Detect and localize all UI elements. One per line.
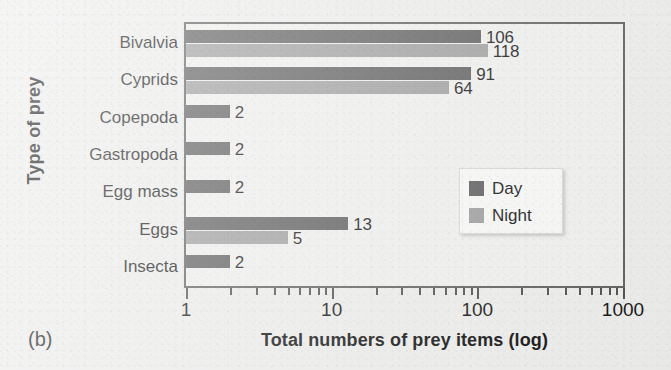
- x-axis-title: Total numbers of prey items (log): [184, 330, 625, 351]
- bar-value-egg-mass-day: 2: [235, 179, 244, 196]
- x-tick-label-10: 10: [321, 300, 342, 319]
- x-tick-major: [477, 288, 479, 299]
- x-tick-label-1000: 1000: [602, 300, 644, 319]
- x-tick-minor: [288, 288, 290, 295]
- bar-value-bivalvia-night: 118: [493, 43, 520, 60]
- x-tick-major: [623, 288, 625, 299]
- x-tick-minor: [274, 288, 276, 295]
- figure-panel-b: BivalviaCypridsCopepodaGastropodaEgg mas…: [0, 0, 671, 370]
- x-tick-minor: [579, 288, 581, 295]
- x-tick-minor: [455, 288, 457, 295]
- legend-item-day[interactable]: Day: [469, 175, 562, 202]
- x-tick-minor: [433, 288, 435, 295]
- x-tick-minor: [547, 288, 549, 295]
- bar-copepoda-day: [186, 105, 230, 118]
- x-tick-minor: [471, 288, 473, 295]
- x-tick-minor: [309, 288, 311, 295]
- legend-swatch-night-icon: [469, 208, 484, 223]
- bar-value-cyprids-day: 91: [476, 66, 495, 83]
- y-axis-label-eggs: Eggs: [18, 221, 178, 238]
- bar-bivalvia-day: [186, 30, 481, 43]
- panel-label: (b): [28, 328, 52, 351]
- bars-layer: 10611891642221352: [186, 24, 623, 286]
- x-tick-minor: [600, 288, 602, 295]
- x-tick-minor: [256, 288, 258, 295]
- x-tick-label-100: 100: [461, 300, 493, 319]
- y-axis-title: Type of prey: [24, 51, 45, 211]
- bar-value-eggs-night: 5: [293, 230, 302, 247]
- bar-cyprids-day: [186, 67, 471, 80]
- x-tick-minor: [230, 288, 232, 295]
- bar-eggs-day: [186, 217, 348, 230]
- legend-label: Night: [492, 207, 532, 224]
- bar-cyprids-night: [186, 81, 449, 94]
- x-tick-minor: [419, 288, 421, 295]
- x-tick-major: [186, 288, 188, 299]
- x-tick-minor: [591, 288, 593, 295]
- bar-egg-mass-day: [186, 180, 230, 193]
- x-axis-ticks: [184, 288, 625, 300]
- x-tick-minor: [521, 288, 523, 295]
- x-tick-minor: [463, 288, 465, 295]
- x-tick-minor: [565, 288, 567, 295]
- legend-swatch-day-icon: [469, 181, 484, 196]
- x-tick-major: [332, 288, 334, 299]
- legend-label: Day: [492, 180, 522, 197]
- x-tick-minor: [318, 288, 320, 295]
- bar-insecta-day: [186, 255, 230, 268]
- x-tick-minor: [299, 288, 301, 295]
- bar-value-eggs-day: 13: [353, 216, 372, 233]
- x-tick-minor: [376, 288, 378, 295]
- legend: DayNight: [459, 168, 563, 234]
- bar-value-gastropoda-day: 2: [235, 141, 244, 158]
- x-tick-minor: [445, 288, 447, 295]
- bar-gastropoda-day: [186, 142, 230, 155]
- bar-eggs-night: [186, 231, 288, 244]
- bar-bivalvia-night: [186, 44, 488, 57]
- x-axis-tick-labels: 1101001000: [184, 300, 625, 324]
- x-tick-minor: [401, 288, 403, 295]
- bar-value-copepoda-day: 2: [235, 104, 244, 121]
- x-tick-label-1: 1: [181, 300, 192, 319]
- legend-item-night[interactable]: Night: [469, 202, 562, 229]
- bar-value-cyprids-night: 64: [454, 80, 473, 97]
- y-axis-label-bivalvia: Bivalvia: [18, 34, 178, 51]
- y-axis-label-insecta: Insecta: [18, 258, 178, 275]
- x-tick-minor: [616, 288, 618, 295]
- x-tick-minor: [609, 288, 611, 295]
- bar-value-insecta-day: 2: [235, 254, 244, 271]
- x-tick-minor: [325, 288, 327, 295]
